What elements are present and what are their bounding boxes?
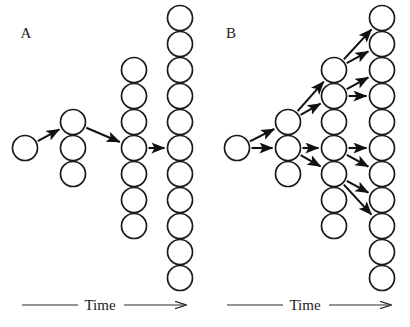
branching-process-figure: ATimeBTime — [0, 0, 410, 327]
node-circle-b-c3-r8 — [370, 214, 395, 239]
node-circle-b-c2-r5 — [322, 188, 347, 213]
node-circle-b-c0-r0 — [225, 136, 250, 161]
node-circle-b-c3-r10 — [370, 266, 395, 291]
node-circle-b-c2-r3 — [322, 136, 347, 161]
figure-background — [0, 0, 410, 327]
node-circle-a-c2-r0 — [122, 58, 147, 83]
node-circle-b-c3-r5 — [370, 136, 395, 161]
node-circle-a-c2-r1 — [122, 84, 147, 109]
node-circle-b-c3-r1 — [370, 32, 395, 57]
node-circle-a-c3-r4 — [168, 110, 193, 135]
node-circle-b-c1-r2 — [276, 162, 301, 187]
node-circle-b-c3-r6 — [370, 162, 395, 187]
node-circle-a-c1-r2 — [61, 162, 86, 187]
node-circle-b-c3-r4 — [370, 110, 395, 135]
node-circle-a-c2-r3 — [122, 136, 147, 161]
node-circle-b-c3-r9 — [370, 240, 395, 265]
node-circle-b-c2-r6 — [322, 214, 347, 239]
panel-label-b: B — [226, 25, 236, 41]
figure-canvas: ATimeBTime — [0, 0, 410, 327]
time-axis-label: Time — [289, 297, 320, 313]
node-circle-b-c3-r7 — [370, 188, 395, 213]
node-circle-b-c2-r0 — [322, 58, 347, 83]
node-circle-a-c1-r1 — [61, 136, 86, 161]
node-circle-b-c1-r0 — [276, 110, 301, 135]
node-circle-a-c2-r6 — [122, 214, 147, 239]
node-circle-a-c3-r9 — [168, 240, 193, 265]
node-circle-a-c3-r5 — [168, 136, 193, 161]
panel-label-a: A — [21, 25, 32, 41]
node-circle-a-c3-r1 — [168, 32, 193, 57]
time-axis-label: Time — [84, 297, 115, 313]
node-circle-b-c2-r4 — [322, 162, 347, 187]
node-circle-b-c1-r1 — [276, 136, 301, 161]
node-circle-a-c3-r7 — [168, 188, 193, 213]
node-circle-a-c3-r2 — [168, 58, 193, 83]
node-circle-a-c2-r4 — [122, 162, 147, 187]
node-circle-a-c3-r3 — [168, 84, 193, 109]
node-circle-a-c3-r8 — [168, 214, 193, 239]
node-circle-b-c2-r2 — [322, 110, 347, 135]
node-circle-a-c1-r0 — [61, 110, 86, 135]
node-circle-a-c2-r2 — [122, 110, 147, 135]
node-circle-a-c3-r0 — [168, 6, 193, 31]
node-circle-a-c2-r5 — [122, 188, 147, 213]
node-circle-b-c3-r3 — [370, 84, 395, 109]
node-circle-a-c3-r6 — [168, 162, 193, 187]
node-circle-b-c2-r1 — [322, 84, 347, 109]
node-circle-a-c3-r10 — [168, 266, 193, 291]
node-circle-b-c3-r2 — [370, 58, 395, 83]
node-circle-a-c0-r0 — [13, 136, 38, 161]
node-circle-b-c3-r0 — [370, 6, 395, 31]
